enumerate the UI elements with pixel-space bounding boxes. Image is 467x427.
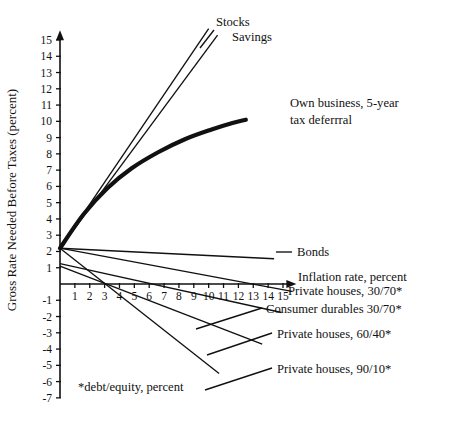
series-line [60,248,292,291]
y-tick-label: -7 [42,392,52,404]
y-tick-label: 15 [41,34,53,46]
y-axis-ticks: 151413121110987654321-1-2-3-4-5-6-7 [41,34,62,404]
y-tick-label: 6 [46,180,52,192]
y-tick-label: 13 [41,67,53,79]
y-tick-label: -2 [42,311,52,323]
y-tick-label: -4 [42,343,52,355]
y-tick-label: -1 [42,294,52,306]
y-axis-arrowhead [56,30,64,40]
series-line [60,264,282,313]
leader-consumer-durables [196,308,262,329]
x-tick-label: 2 [87,290,93,302]
y-axis-title-text: Gross Rate Needed Before Taxes (percent) [4,89,19,311]
x-tick-label: 14 [262,290,274,302]
x-tick-label: 9 [191,290,197,302]
series-label: Own business, 5-year [290,96,400,110]
footnote-text: *debt/equity, percent [78,380,184,394]
y-tick-label: 1 [46,262,52,274]
x-axis-title-text: Inflation rate, percent [298,270,407,284]
y-tick-label: -5 [42,359,52,371]
y-axis-title: Gross Rate Needed Before Taxes (percent) [4,89,19,311]
y-tick-label: -3 [42,327,52,339]
y-tick-label: 2 [46,245,52,257]
series-line [60,120,246,249]
y-tick-label: 8 [46,148,52,160]
investment-returns-line-chart: Gross Rate Needed Before Taxes (percent)… [0,0,467,427]
y-tick-label: 4 [46,213,52,225]
series-annotations: StocksSavingsOwn business, 5-yeartax def… [216,15,407,376]
y-tick-label: 10 [41,115,53,127]
x-tick-label: 3 [102,290,108,302]
y-tick-label: 11 [41,99,52,111]
series-label: Private houses, 90/10* [277,362,391,376]
series-label: Private houses, 30/70* [288,284,402,298]
chart-figure: Gross Rate Needed Before Taxes (percent)… [0,0,467,427]
series-label: Bonds [297,245,329,259]
series-line [60,266,262,344]
x-tick-label: 7 [161,290,167,302]
y-tick-label: 9 [46,132,52,144]
x-tick-label: 12 [233,290,245,302]
x-tick-label: 1 [72,290,78,302]
x-axis-ticks: 123456789101112131415 [72,283,289,302]
y-tick-label: 14 [41,50,53,62]
series-line [60,248,219,373]
series-label: tax deferrral [290,113,352,127]
data-series-layer [60,29,292,374]
x-tick-label: 13 [248,290,260,302]
leader-private-90-10 [205,368,272,390]
axes [56,30,296,398]
series-label: Savings [232,30,272,44]
y-tick-label: -6 [42,376,52,388]
y-tick-label: 3 [46,229,52,241]
y-tick-label: 7 [46,164,52,176]
series-label: Consumer durables 30/70* [266,302,402,316]
series-label: Stocks [216,15,250,29]
y-tick-label: 5 [46,197,52,209]
x-tick-label: 8 [176,290,182,302]
series-label: Private houses, 60/40* [277,327,391,341]
y-tick-label: 12 [41,83,53,95]
